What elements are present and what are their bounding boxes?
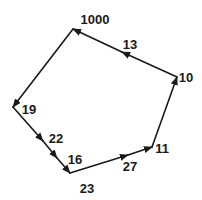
node-label-10: 10: [179, 70, 193, 85]
edge-13-to-1000: [73, 29, 122, 52]
edge-1000-to-19: [13, 29, 73, 107]
node-label-13: 13: [123, 37, 137, 52]
edge-11-to-10: [152, 77, 177, 147]
node-label-27: 27: [123, 159, 137, 174]
edge-10-to-13: [122, 52, 177, 77]
edge-27-to-11: [128, 147, 152, 155]
node-label-23: 23: [80, 181, 94, 196]
node-label-1000: 1000: [81, 12, 110, 27]
node-label-11: 11: [155, 141, 169, 156]
node-label-16: 16: [68, 152, 82, 167]
cycle-arrows-svg: 1000 13 10 11 27 23 16 22 19: [0, 0, 202, 200]
node-label-19: 19: [22, 102, 36, 117]
number-cycle-diagram: 1000 13 10 11 27 23 16 22 19: [0, 0, 202, 200]
node-label-22: 22: [49, 131, 63, 146]
